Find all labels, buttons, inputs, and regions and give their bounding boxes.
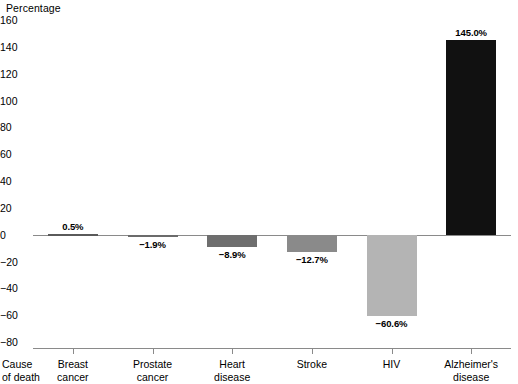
y-axis-tick-label: 80 bbox=[0, 122, 30, 132]
bar-value-label: −8.9% bbox=[192, 249, 272, 260]
bar-value-label: −60.6% bbox=[352, 318, 432, 329]
y-axis-tick-label: 100 bbox=[0, 96, 30, 106]
zero-baseline bbox=[33, 235, 511, 236]
x-category-label-line: Alzheimer's bbox=[419, 358, 518, 371]
y-axis-tick-label: 60 bbox=[0, 149, 30, 159]
x-axis-tick bbox=[471, 348, 472, 354]
bar-value-label: 145.0% bbox=[431, 27, 511, 38]
bar bbox=[48, 234, 98, 236]
bar bbox=[287, 235, 337, 252]
x-axis-tick bbox=[73, 348, 74, 354]
bar-value-label: −12.7% bbox=[272, 254, 352, 265]
y-axis-tick-label: 20 bbox=[0, 203, 30, 213]
plot-area: 0.5%−1.9%−8.9%−12.7%−60.6%145.0% bbox=[33, 20, 511, 342]
y-axis-tick-label: 0 bbox=[0, 230, 30, 240]
x-axis-tick bbox=[153, 348, 154, 354]
y-axis-tick-label: 120 bbox=[0, 69, 30, 79]
x-category-label: Alzheimer'sdisease bbox=[419, 358, 518, 383]
y-axis-tick-label: 160 bbox=[0, 15, 30, 25]
bar-chart: Percentage 160140120100806040200−20−40−6… bbox=[0, 0, 518, 384]
bar bbox=[128, 235, 178, 238]
x-axis-tick bbox=[312, 348, 313, 354]
y-axis-title: Percentage bbox=[6, 2, 61, 14]
x-axis-line bbox=[33, 348, 511, 349]
y-axis-tick-label: −60 bbox=[0, 310, 30, 320]
y-axis-tick-label: 40 bbox=[0, 176, 30, 186]
bar bbox=[446, 40, 496, 235]
x-axis-tick bbox=[232, 348, 233, 354]
bar-value-label: −1.9% bbox=[113, 239, 193, 250]
y-axis-tick-label: 140 bbox=[0, 42, 30, 52]
y-axis-tick-label: −20 bbox=[0, 257, 30, 267]
x-category-label-line: disease bbox=[180, 371, 284, 384]
y-axis-tick-label: −80 bbox=[0, 337, 30, 347]
bar bbox=[367, 235, 417, 316]
bar bbox=[207, 235, 257, 247]
bar-value-label: 0.5% bbox=[33, 221, 113, 232]
x-axis-tick bbox=[392, 348, 393, 354]
y-axis-tick-label: −40 bbox=[0, 283, 30, 293]
x-category-label-line: disease bbox=[419, 371, 518, 384]
